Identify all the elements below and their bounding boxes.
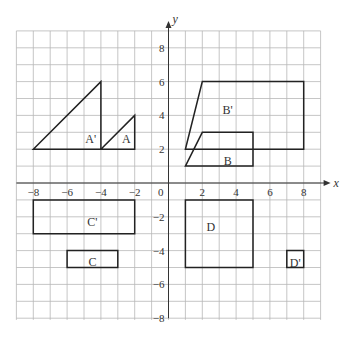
- shape-b-label: B: [224, 154, 232, 168]
- x-tick-label: −6: [61, 186, 73, 198]
- y-tick-label: 8: [159, 42, 165, 54]
- axes: xy: [16, 12, 339, 318]
- x-tick-label: 6: [267, 186, 273, 198]
- x-tick-label: 8: [301, 186, 307, 198]
- x-tick-label: 2: [200, 186, 206, 198]
- y-tick-label: −2: [153, 211, 165, 223]
- y-axis-arrow-icon: [166, 21, 172, 28]
- y-axis-label: y: [172, 12, 179, 26]
- coordinate-grid: xy −8−6−4−224688642−2−4−6−80 AA'BB'CC'DD…: [0, 0, 344, 341]
- shape-a-label: A: [122, 132, 131, 146]
- y-tick-label: 4: [159, 109, 165, 121]
- shape-b-prime-label: B': [223, 103, 233, 117]
- x-axis-arrow-icon: [324, 180, 331, 186]
- x-tick-label: −2: [129, 186, 141, 198]
- shape-a-prime-label: A': [85, 132, 96, 146]
- y-tick-label: 2: [159, 143, 165, 155]
- shape-c-label: C: [88, 255, 96, 269]
- shape-d-prime-label: D': [290, 256, 301, 270]
- x-tick-label: −8: [27, 186, 39, 198]
- y-tick-label: 6: [159, 76, 165, 88]
- shape-d-label: D: [206, 220, 215, 234]
- origin-label: 0: [158, 186, 164, 198]
- y-tick-label: −6: [153, 278, 165, 290]
- x-tick-label: 4: [233, 186, 239, 198]
- y-tick-label: −4: [153, 245, 165, 257]
- shape-c-prime-label: C': [87, 215, 97, 229]
- x-tick-label: −4: [95, 186, 107, 198]
- x-axis-label: x: [333, 176, 340, 190]
- y-tick-label: −8: [153, 312, 165, 324]
